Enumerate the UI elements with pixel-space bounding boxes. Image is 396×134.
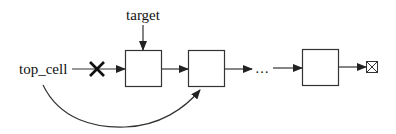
list-node-1 — [126, 51, 162, 87]
list-node-3 — [303, 50, 339, 86]
list-node-2 — [189, 51, 225, 87]
linked-list-diagram: target top_cell … — [0, 0, 396, 134]
target-label: target — [126, 7, 161, 23]
top-cell-label: top_cell — [19, 61, 67, 77]
top-cell-to-node-2-curved-arrow — [43, 85, 200, 127]
null-terminator-icon — [367, 62, 378, 73]
ellipsis-label: … — [255, 61, 269, 76]
